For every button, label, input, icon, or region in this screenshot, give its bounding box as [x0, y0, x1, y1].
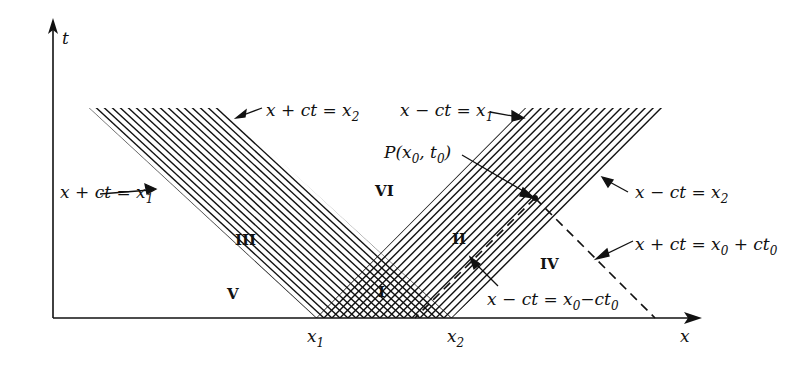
t-axis	[48, 18, 58, 318]
annotation-x-minus-ct-x1: x − ct = x1	[400, 100, 493, 124]
arrow-icon	[236, 110, 246, 118]
characteristics-diagram: t x x1 x2 III V I II VI IV x + ct = x2 x…	[0, 0, 802, 377]
arrow-icon	[596, 249, 609, 259]
annotation-x-plus-ct-x1: x + ct = x1	[60, 182, 153, 206]
x1-tick-label: x1	[307, 326, 324, 350]
region-ii-label: II	[452, 230, 466, 248]
region-iii-label: III	[235, 231, 256, 249]
region-iv-label: IV	[540, 255, 559, 273]
x-axis	[53, 312, 702, 324]
point-p-label: P(x0, t0)	[383, 142, 451, 166]
annotation-x-minus-ct-x2: x − ct = x2	[635, 182, 728, 206]
annotation-dashed-plus: x + ct = x0 + ct0	[635, 234, 778, 258]
annotation-x-plus-ct-x2: x + ct = x2	[266, 100, 359, 124]
t-axis-label: t	[62, 28, 69, 48]
arrow-icon	[602, 177, 613, 187]
region-vi-label: VI	[374, 182, 394, 200]
region-v-label: V	[226, 285, 239, 303]
annotation-dashed-minus: x − ct = x0−ct0	[487, 289, 619, 313]
x2-tick-label: x2	[447, 326, 464, 350]
x-axis-label: x	[680, 326, 690, 346]
region-i-label: I	[378, 283, 385, 301]
